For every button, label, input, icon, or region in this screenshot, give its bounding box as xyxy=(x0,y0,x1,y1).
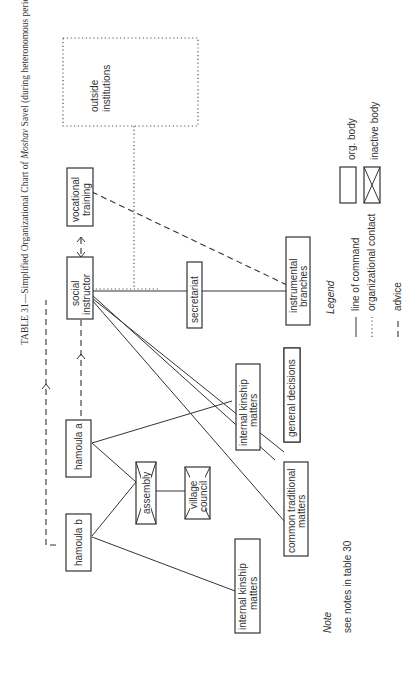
note-text: see notes in table 30 xyxy=(342,540,353,633)
legend: Legend org. body inactive body line of c… xyxy=(325,102,403,337)
svg-text:vocational: vocational xyxy=(70,177,81,222)
advice-line-hamoula-b xyxy=(46,300,56,545)
svg-text:secretariat: secretariat xyxy=(189,276,200,323)
svg-text:general decisions: general decisions xyxy=(286,359,297,437)
node-outside-institutions: outside institutions xyxy=(89,65,112,112)
node-social-instructor: social instructor xyxy=(67,257,93,319)
legend-inactive-body-label: inactive body xyxy=(369,102,380,160)
node-hamoula-b: hamoula b xyxy=(66,514,91,571)
chart-title: TABLE 31—Simplified Organizational Chart… xyxy=(20,0,31,345)
svg-text:matters: matters xyxy=(248,577,259,610)
outside-institutions-box xyxy=(63,38,198,126)
legend-org-body-swatch xyxy=(340,167,356,203)
node-secretariat: secretariat xyxy=(187,262,202,328)
svg-text:social: social xyxy=(70,280,81,306)
svg-text:instructor: instructor xyxy=(81,273,92,315)
legend-advice-label: advice xyxy=(392,282,403,311)
command-line-assembly-b xyxy=(92,482,136,536)
svg-text:council: council xyxy=(198,481,209,512)
node-hamoula-a: hamoula a xyxy=(66,420,91,477)
svg-text:matters: matters xyxy=(248,394,259,427)
node-vocational-training: vocational training xyxy=(67,168,93,226)
svg-text:internal kinship: internal kinship xyxy=(237,563,248,630)
legend-org-body-label: org. body xyxy=(346,118,357,160)
legend-command-label: line of command xyxy=(350,238,361,311)
svg-text:training: training xyxy=(81,183,92,216)
legend-title: Legend xyxy=(325,280,336,314)
arrow-up-icon xyxy=(42,384,50,389)
note: Note see notes in table 30 xyxy=(322,540,353,633)
command-line-assembly-a xyxy=(92,443,136,482)
node-common-traditional-matters: common traditional matters xyxy=(284,462,308,556)
node-general-decisions: general decisions xyxy=(284,348,300,442)
node-internal-kinship-matters-a: internal kinship matters xyxy=(236,364,260,450)
legend-inactive-body-swatch xyxy=(364,167,380,203)
note-title: Note xyxy=(322,611,333,633)
node-assembly: assembly xyxy=(136,462,156,524)
node-internal-kinship-matters-b: internal kinship matters xyxy=(235,539,260,633)
svg-text:matters: matters xyxy=(296,495,307,528)
svg-text:assembly: assembly xyxy=(141,472,152,514)
svg-text:branches: branches xyxy=(298,266,309,307)
svg-text:institutions: institutions xyxy=(101,65,112,112)
legend-contact-label: organizational contact xyxy=(366,213,377,311)
node-village-council: village council xyxy=(185,467,210,519)
svg-text:hamoula b: hamoula b xyxy=(73,519,84,566)
arrow-up-icon xyxy=(77,354,85,359)
command-line-kinship-b xyxy=(92,537,235,591)
org-chart: TABLE 31—Simplified Organizational Chart… xyxy=(0,0,418,686)
svg-text:hamoula a: hamoula a xyxy=(73,423,84,470)
svg-text:outside: outside xyxy=(89,79,100,112)
node-instrumental-branches: instrumental branches xyxy=(286,237,310,325)
